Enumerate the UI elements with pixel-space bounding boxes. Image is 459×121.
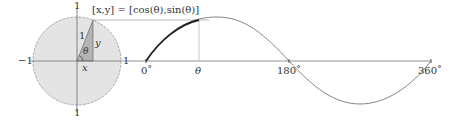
circle-top-label: 1 (74, 1, 80, 11)
hypotenuse-label: 1 (79, 31, 85, 41)
tick-0-label: 0˚ (141, 66, 152, 76)
tick-180-label: 180˚ (277, 66, 301, 76)
circle-left-label: −1 (18, 56, 33, 66)
sine-highlight (146, 20, 199, 61)
circle-bottom-label: 1 (74, 108, 80, 118)
angle-label: θ (83, 47, 88, 56)
point-formula-label: [x,y] = [cos(θ),sin(θ)] (92, 5, 199, 15)
unit-circle-sine-diagram (0, 0, 459, 121)
circle-right-label: 1 (123, 56, 129, 66)
tick-360-label: 360˚ (418, 66, 442, 76)
tick-theta-label: θ (195, 66, 201, 76)
sine-curve (146, 17, 431, 104)
y-label: y (95, 38, 101, 48)
x-label: x (82, 63, 88, 73)
